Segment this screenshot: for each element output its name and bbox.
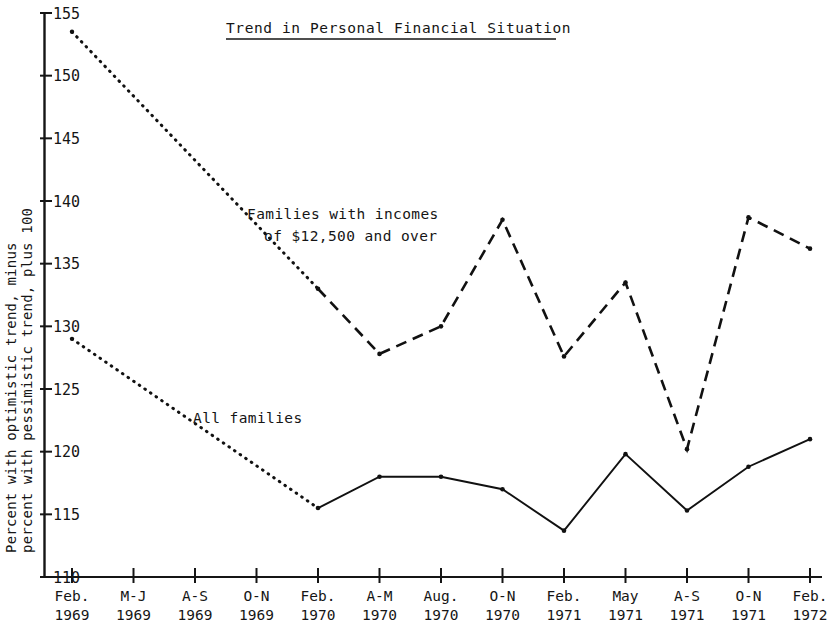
y-axis-tick-label: 130: [53, 318, 80, 336]
data-point-marker: [500, 218, 505, 223]
lower-series-label: All families: [193, 410, 303, 426]
chart-figure: 110115120125130135140145150155 Feb.1969M…: [0, 0, 832, 623]
data-point-marker: [439, 474, 444, 479]
data-point-marker: [500, 487, 505, 492]
data-point-marker: [746, 464, 751, 469]
y-axis-tick-label: 135: [53, 255, 80, 273]
x-axis-tick-label-period: M-J: [120, 588, 146, 604]
y-axis-ticks: [40, 13, 52, 577]
x-axis-tick-label-year: 1971: [670, 607, 705, 623]
data-point-marker: [623, 280, 628, 285]
x-axis-tick-label-year: 1969: [178, 607, 213, 623]
data-point-marker: [685, 508, 690, 513]
x-axis-tick-label-period: A-M: [366, 588, 392, 604]
x-axis-tick-label-period: A-S: [674, 588, 700, 604]
data-point-marker: [70, 30, 74, 34]
y-axis-tick-label: 150: [53, 67, 80, 85]
y-axis-tick-label: 140: [53, 193, 80, 211]
data-point-marker: [562, 528, 567, 533]
y-axis-tick-label: 110: [53, 569, 80, 587]
x-axis-tick-label-year: 1970: [485, 607, 520, 623]
upper-series-label-line2: of $12,500 and over: [264, 228, 437, 244]
series-0-line: [318, 217, 810, 449]
data-point-marker: [439, 324, 444, 329]
data-point-marker: [70, 337, 74, 341]
series-annotation-lower: All families: [193, 410, 303, 426]
y-axis-tick-label: 120: [53, 443, 80, 461]
x-axis-tick-label-year: 1969: [55, 607, 90, 623]
x-axis-tick-label-period: A-S: [182, 588, 208, 604]
data-point-marker: [746, 215, 751, 220]
data-point-marker: [623, 452, 628, 457]
x-axis-tick-label-year: 1970: [301, 607, 336, 623]
y-axis-title-line2: percent with pessimistic trend, plus 100: [19, 208, 35, 553]
x-axis-tick-label-period: Feb.: [55, 588, 90, 604]
x-axis-tick-label-year: 1972: [793, 607, 828, 623]
upper-series-label-line1: Families with incomes: [247, 206, 439, 222]
y-axis-title-group: Percent with optimistic trend, minus per…: [3, 208, 35, 553]
x-axis-tick-label-period: O-N: [735, 588, 761, 604]
series-annotation-upper: Families with incomes of $12,500 and ove…: [247, 206, 439, 244]
chart-title-group: Trend in Personal Financial Situation: [226, 20, 571, 39]
x-axis-tick-label-period: May: [612, 588, 638, 604]
y-axis-tick-label: 125: [53, 381, 80, 399]
data-point-marker: [685, 447, 690, 452]
x-axis-tick-label-period: O-N: [243, 588, 269, 604]
x-axis-ticks: [72, 568, 810, 583]
data-point-marker: [808, 246, 813, 251]
x-axis-tick-label-period: Feb.: [547, 588, 582, 604]
data-point-markers: [70, 30, 813, 533]
series-1-line: [318, 439, 810, 530]
data-series-group: [72, 32, 810, 531]
x-axis-tick-label-period: Aug.: [424, 588, 459, 604]
x-axis-tick-label-year: 1971: [731, 607, 766, 623]
x-axis-tick-label-year: 1969: [239, 607, 274, 623]
x-axis-tick-label-year: 1971: [547, 607, 582, 623]
data-point-marker: [808, 437, 813, 442]
data-point-marker: [562, 354, 567, 359]
x-axis-tick-label-period: Feb.: [793, 588, 828, 604]
y-axis-tick-label: 145: [53, 130, 80, 148]
data-point-marker: [316, 286, 321, 291]
y-axis-tick-label: 155: [53, 5, 80, 23]
page-title: Trend in Personal Financial Situation: [226, 20, 571, 36]
y-axis-tick-label: 115: [53, 506, 80, 524]
series-0-interpolated-segment: [72, 32, 318, 289]
x-axis-tick-label-year: 1969: [116, 607, 151, 623]
line-chart-canvas: 110115120125130135140145150155 Feb.1969M…: [0, 0, 832, 623]
x-axis-tick-label-period: O-N: [489, 588, 515, 604]
x-axis-tick-label-year: 1971: [608, 607, 643, 623]
data-point-marker: [316, 506, 321, 511]
y-axis-title-line1: Percent with optimistic trend, minus: [3, 242, 19, 553]
axes-group: [45, 13, 823, 578]
data-point-marker: [377, 474, 382, 479]
data-point-marker: [377, 352, 382, 357]
x-axis-tick-label-period: Feb.: [301, 588, 336, 604]
x-axis-tick-label-year: 1970: [362, 607, 397, 623]
y-axis-tick-labels: 110115120125130135140145150155: [53, 5, 80, 587]
x-axis-tick-label-year: 1970: [424, 607, 459, 623]
x-axis-tick-labels: Feb.1969M-J1969A-S1969O-N1969Feb.1970A-M…: [55, 588, 828, 623]
